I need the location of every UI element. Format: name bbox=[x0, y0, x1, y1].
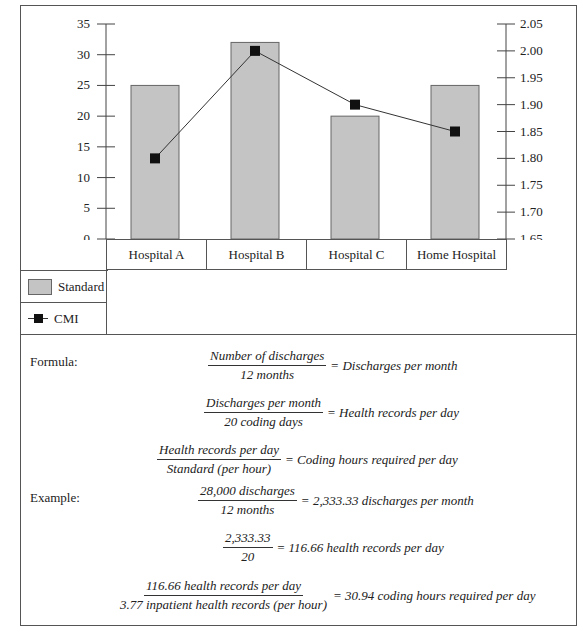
example-equation: 2,333.3320= 116.66 health records per da… bbox=[223, 530, 444, 565]
bar-standard bbox=[431, 85, 479, 239]
fraction: 116.66 health records per day3.77 inpati… bbox=[118, 578, 329, 613]
cmi-marker bbox=[450, 127, 460, 137]
formula-label: Formula: bbox=[30, 354, 78, 370]
right-axis-tick-label: 1.80 bbox=[520, 150, 543, 165]
cmi-marker bbox=[150, 153, 160, 163]
example-equation: 116.66 health records per day3.77 inpati… bbox=[118, 578, 535, 613]
right-axis-tick-label: 1.85 bbox=[520, 124, 543, 139]
example-equation: 28,000 discharges12 months= 2,333.33 dis… bbox=[198, 483, 474, 518]
x-category-label: Hospital B bbox=[206, 239, 307, 270]
result: = 30.94 coding hours required per day bbox=[333, 588, 535, 604]
fraction: Number of discharges12 months bbox=[208, 348, 326, 383]
denominator: 12 months bbox=[219, 501, 277, 518]
section-divider bbox=[20, 334, 577, 335]
cmi-marker bbox=[350, 100, 360, 110]
legend-label-cmi: CMI bbox=[54, 311, 79, 327]
formula-equation: Discharges per month20 coding days= Heal… bbox=[204, 395, 459, 430]
result: = 2,333.33 discharges per month bbox=[301, 493, 474, 509]
bar-swatch-icon bbox=[28, 279, 52, 295]
numerator: 2,333.33 bbox=[223, 530, 273, 548]
result: = Discharges per month bbox=[330, 358, 457, 374]
left-axis-tick-label: 30 bbox=[77, 47, 90, 62]
numerator: Discharges per month bbox=[204, 395, 323, 413]
legend-label-standard: Standard bbox=[58, 279, 104, 295]
legend-item-standard: Standard bbox=[20, 271, 107, 303]
fraction: 28,000 discharges12 months bbox=[198, 483, 297, 518]
result: = 116.66 health records per day bbox=[277, 540, 444, 556]
left-axis-tick-label: 5 bbox=[84, 200, 91, 215]
line-marker-icon bbox=[28, 314, 48, 324]
fraction: Health records per dayStandard (per hour… bbox=[157, 442, 281, 477]
right-axis-tick-label: 2.00 bbox=[520, 43, 543, 58]
fraction: Discharges per month20 coding days bbox=[204, 395, 323, 430]
result: = Health records per day bbox=[327, 405, 459, 421]
left-axis-tick-label: 0 bbox=[84, 231, 91, 240]
x-category-label: Hospital A bbox=[106, 239, 207, 270]
denominator: 12 months bbox=[238, 366, 296, 383]
denominator: 20 coding days bbox=[222, 413, 305, 430]
x-category-label: Home Hospital bbox=[406, 239, 507, 270]
bar-standard bbox=[231, 42, 279, 239]
numerator: 116.66 health records per day bbox=[144, 578, 303, 596]
right-axis-tick-label: 1.70 bbox=[520, 204, 543, 219]
fraction: 2,333.3320 bbox=[223, 530, 273, 565]
cmi-line bbox=[155, 51, 455, 159]
combo-chart: 051015202530351.651.701.751.801.851.901.… bbox=[0, 0, 583, 240]
denominator: 3.77 inpatient health records (per hour) bbox=[118, 596, 329, 613]
x-category-label: Hospital C bbox=[306, 239, 407, 270]
result: = Coding hours required per day bbox=[285, 452, 458, 468]
formula-equation: Health records per dayStandard (per hour… bbox=[157, 442, 458, 477]
right-axis-tick-label: 2.05 bbox=[520, 16, 543, 31]
numerator: 28,000 discharges bbox=[198, 483, 297, 501]
left-axis-tick-label: 10 bbox=[77, 170, 90, 185]
numerator: Health records per day bbox=[157, 442, 281, 460]
left-axis-tick-label: 15 bbox=[77, 139, 90, 154]
right-axis-tick-label: 1.75 bbox=[520, 177, 543, 192]
left-axis-tick-label: 35 bbox=[77, 16, 90, 31]
right-axis-tick-label: 1.65 bbox=[520, 231, 543, 240]
legend-item-cmi: CMI bbox=[20, 303, 107, 334]
right-axis-tick-label: 1.90 bbox=[520, 97, 543, 112]
denominator: 20 bbox=[239, 548, 256, 565]
formula-equation: Number of discharges12 months= Discharge… bbox=[208, 348, 457, 383]
example-label: Example: bbox=[30, 490, 80, 506]
numerator: Number of discharges bbox=[208, 348, 326, 366]
left-axis-tick-label: 20 bbox=[77, 108, 90, 123]
cmi-marker bbox=[250, 46, 260, 56]
right-axis-tick-label: 1.95 bbox=[520, 70, 543, 85]
denominator: Standard (per hour) bbox=[165, 460, 273, 477]
left-axis-tick-label: 25 bbox=[77, 77, 90, 92]
bar-standard bbox=[331, 116, 379, 239]
